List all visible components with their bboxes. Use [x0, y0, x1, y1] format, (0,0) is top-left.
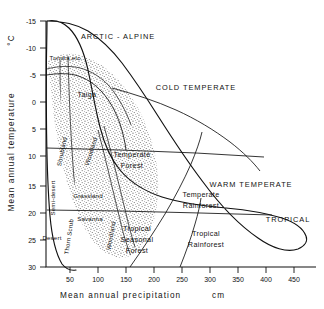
x-tick-label: 350 [232, 276, 244, 283]
y-tick-label: 25 [28, 237, 36, 244]
biome-label-thorn-scrub: Thorn Scrub [63, 218, 75, 255]
biome-label-tundra: Tundra,etc. [50, 54, 83, 61]
biome-label-tropical-seasonal-line3: Forest [126, 246, 148, 255]
y-tick-label: 30 [28, 264, 36, 271]
biome-label-temperate-forest-line2: Forest [121, 161, 143, 170]
biome-label-grassland: Grassland [73, 192, 103, 199]
y-tick-label: 0 [32, 99, 36, 106]
y-tick-label: -15 [26, 18, 36, 25]
biome-label-desert: Desert [42, 234, 61, 241]
biome-label-tropical-seasonal-line1: Tropical [123, 224, 151, 233]
climate-zone-label-warm-temperate: WARM TEMPERATE [210, 180, 293, 189]
y-axis-tick-labels: -15 -10 -5 0 5 10 15 20 25 30 [26, 18, 36, 271]
x-tick-label: 250 [176, 276, 188, 283]
biome-label-savanna: Savanna [77, 215, 103, 222]
biome-label-temperate-forest-line1: Temperate [113, 150, 150, 159]
biome-label-temperate-rainforest-line1: Temperate [182, 190, 219, 199]
whittaker-biome-diagram: -15 -10 -5 0 5 10 15 20 25 30 50 100 150… [0, 0, 324, 309]
biome-label-semi-desert: Semi-desert [49, 180, 56, 215]
x-tick-label: 400 [260, 276, 272, 283]
x-axis-ticks [70, 267, 294, 273]
biome-label-tropical-seasonal-line2: Seasonal [121, 235, 154, 244]
x-axis-tick-labels: 50 100 150 200 250 300 350 400 450 [66, 276, 300, 283]
x-tick-label: 200 [148, 276, 160, 283]
climate-zone-label-cold-temperate: COLD TEMPERATE [156, 83, 236, 92]
biome-label-tropical-rainforest-line1: Tropical [192, 229, 220, 238]
y-tick-label: 20 [28, 210, 36, 217]
y-tick-label: 15 [28, 183, 36, 190]
y-axis-unit: °C [7, 34, 16, 45]
x-axis-title: Mean annual precipitation [60, 291, 181, 300]
y-tick-label: -10 [26, 45, 36, 52]
y-tick-label: -5 [30, 72, 36, 79]
y-axis-title: Mean annual temperature [7, 92, 16, 211]
x-tick-label: 100 [92, 276, 104, 283]
y-tick-label: 10 [28, 153, 36, 160]
diagram-canvas: -15 -10 -5 0 5 10 15 20 25 30 50 100 150… [0, 0, 324, 309]
biome-label-taiga: Taiga [78, 90, 97, 99]
y-tick-label: 5 [32, 126, 36, 133]
climate-zone-label-tropical: TROPICAL [266, 215, 311, 224]
y-axis-ticks [40, 21, 46, 267]
x-axis-unit: cm [212, 291, 225, 300]
x-tick-label: 150 [120, 276, 132, 283]
x-tick-label: 300 [204, 276, 216, 283]
biome-label-tropical-rainforest-line2: Rainforest [188, 240, 224, 249]
x-tick-label: 50 [66, 276, 74, 283]
climate-zone-label-arctic-alpine: ARCTIC - ALPINE [81, 32, 155, 41]
x-tick-label: 450 [288, 276, 300, 283]
biome-label-temperate-rainforest-line2: Rainforest [183, 201, 219, 210]
